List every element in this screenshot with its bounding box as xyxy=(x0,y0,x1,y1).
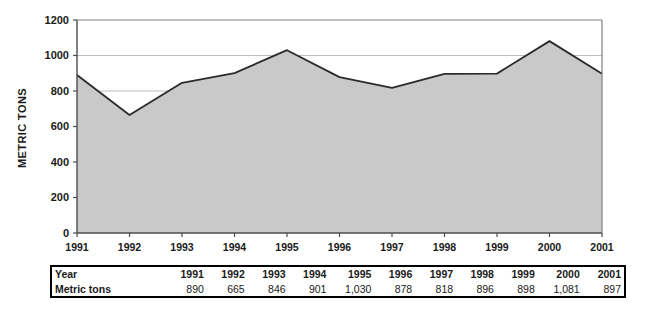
table-cell-value: 890 xyxy=(166,282,207,298)
y-axis-tick-label: 800 xyxy=(25,86,69,97)
x-axis-tick-label: 1994 xyxy=(205,242,265,253)
y-axis-tick-label: 400 xyxy=(25,157,69,168)
table-cell-year: 1995 xyxy=(329,266,374,282)
row-label-metric-tons: Metric tons xyxy=(51,282,166,298)
x-axis-tick-label: 1992 xyxy=(100,242,160,253)
data-table: Year 19911992199319941995199619971998199… xyxy=(50,265,626,298)
table-cell-year: 1997 xyxy=(415,266,456,282)
table-cell-year: 1992 xyxy=(207,266,248,282)
x-axis-tick-label: 1999 xyxy=(467,242,527,253)
data-table-container: Year 19911992199319941995199619971998199… xyxy=(50,265,626,298)
chart-plot-area xyxy=(0,0,650,260)
table-cell-year: 1999 xyxy=(497,266,538,282)
x-axis-tick-label: 2000 xyxy=(520,242,580,253)
table-cell-value: 896 xyxy=(456,282,497,298)
x-axis-tick-label: 2001 xyxy=(572,242,632,253)
table-cell-value: 901 xyxy=(289,282,330,298)
table-cell-value: 665 xyxy=(207,282,248,298)
table-row-year: Year 19911992199319941995199619971998199… xyxy=(51,266,625,282)
table-cell-value: 818 xyxy=(415,282,456,298)
area-chart: METRIC TONS 020040060080010001200 199119… xyxy=(0,0,650,260)
table-cell-value: 846 xyxy=(248,282,289,298)
x-axis-tick-label: 1991 xyxy=(47,242,107,253)
table-cell-year: 1991 xyxy=(166,266,207,282)
x-axis-tick-label: 1993 xyxy=(152,242,212,253)
table-cell-value: 1,081 xyxy=(538,282,583,298)
x-axis-tick-label: 1998 xyxy=(415,242,475,253)
x-axis-tick-label: 1995 xyxy=(257,242,317,253)
y-axis-tick-label: 1200 xyxy=(25,15,69,26)
y-axis-tick-label: 0 xyxy=(25,228,69,239)
table-cell-value: 898 xyxy=(497,282,538,298)
table-cell-value: 897 xyxy=(583,282,625,298)
table-cell-year: 1996 xyxy=(374,266,415,282)
table-cell-year: 2001 xyxy=(583,266,625,282)
table-cell-value: 1,030 xyxy=(329,282,374,298)
x-axis-tick-label: 1996 xyxy=(310,242,370,253)
table-cell-year: 1998 xyxy=(456,266,497,282)
table-row-metric-tons: Metric tons 8906658469011,03087881889689… xyxy=(51,282,625,298)
table-cell-year: 1993 xyxy=(248,266,289,282)
y-axis-tick-label: 600 xyxy=(25,121,69,132)
table-cell-year: 1994 xyxy=(289,266,330,282)
y-axis-tick-label: 1000 xyxy=(25,50,69,61)
table-cell-value: 878 xyxy=(374,282,415,298)
x-axis-tick-label: 1997 xyxy=(362,242,422,253)
row-label-year: Year xyxy=(51,266,166,282)
area-series-fill xyxy=(77,41,602,233)
y-axis-tick-label: 200 xyxy=(25,192,69,203)
table-cell-year: 2000 xyxy=(538,266,583,282)
